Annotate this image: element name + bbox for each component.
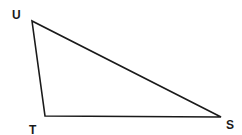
vertex-label-u: U (12, 8, 21, 22)
vertex-label-t: T (29, 123, 37, 135)
triangle-diagram: U T S (0, 0, 242, 135)
triangle-UTS (32, 21, 221, 117)
vertex-label-s: S (226, 118, 234, 132)
